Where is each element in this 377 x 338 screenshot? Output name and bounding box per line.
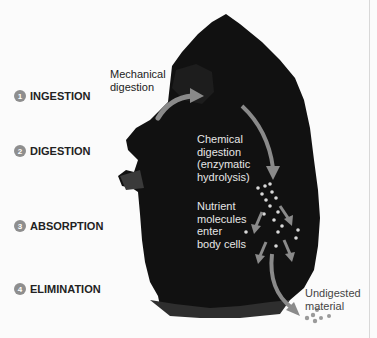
mechanical-digestion-note: Mechanical digestion — [110, 68, 166, 93]
stage-number-badge: 1 — [14, 90, 26, 102]
stage-number-badge: 2 — [14, 145, 26, 157]
page-edge-divider — [369, 0, 370, 338]
stage-label: DIGESTION — [30, 145, 91, 157]
stage-elimination: 4 ELIMINATION — [14, 283, 101, 295]
nutrient-molecules-note: Nutrient molecules enter body cells — [197, 200, 247, 250]
stage-label: ELIMINATION — [30, 283, 101, 295]
stage-label: INGESTION — [30, 90, 91, 102]
undigested-material-note: Undigested material — [305, 287, 361, 312]
stage-ingestion: 1 INGESTION — [14, 90, 91, 102]
chemical-digestion-note: Chemical digestion (enzymatic hydrolysis… — [197, 133, 250, 183]
stage-number-badge: 3 — [14, 220, 26, 232]
stage-digestion: 2 DIGESTION — [14, 145, 91, 157]
stage-label: ABSORPTION — [30, 220, 103, 232]
stage-absorption: 3 ABSORPTION — [14, 220, 103, 232]
digestion-diagram: 1 INGESTION 2 DIGESTION 3 ABSORPTION 4 E… — [0, 0, 377, 338]
stage-number-badge: 4 — [14, 283, 26, 295]
